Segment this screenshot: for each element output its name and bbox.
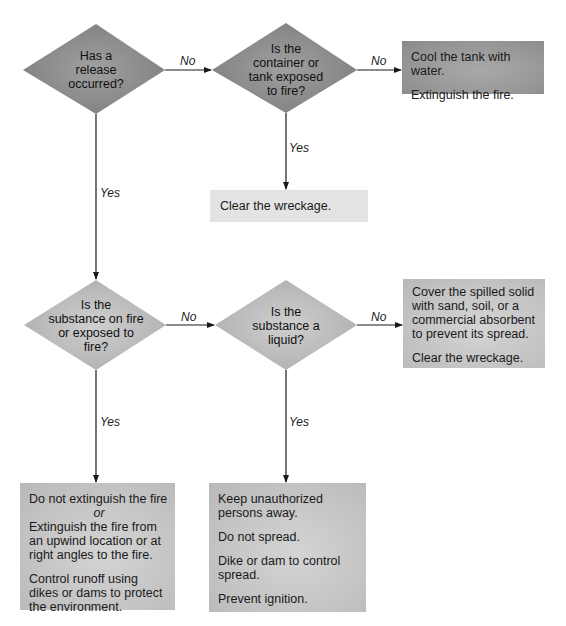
decision-on-fire-text: Is the substance on fire or exposed to f… [41,298,151,354]
text-line: release [46,63,146,77]
action-box-clear-wreckage: Clear the wreckage. [210,190,368,222]
edge-label-liquid-yes: Yes [289,415,309,429]
action-text: Do not spread. [218,530,358,544]
action-text: Extinguish the fire from an upwind locat… [29,520,169,562]
decision-release-text: Has a release occurred? [46,49,146,91]
text-line: occurred? [46,77,146,91]
text-line: container or [231,56,341,70]
text-line: substance on fire [41,312,151,326]
text-line: Is the [41,298,151,312]
action-text: Cover the spilled solid with sand, soil,… [412,285,539,341]
text-line: Is the [231,42,341,56]
flowchart: Has a release occurred? Is the container… [0,0,566,626]
edge-label-on-fire-yes: Yes [100,415,120,429]
action-text: Clear the wreckage. [412,351,539,365]
edge-label-release-no: No [180,54,195,68]
action-text: Extinguish the fire. [411,88,536,102]
text-line: Is the [236,305,336,319]
action-text: Do not extinguish the fire [29,492,169,506]
decision-container-text: Is the container or tank exposed to fire… [231,42,341,98]
text-line: Has a [46,49,146,63]
edge-label-container-yes: Yes [289,141,309,155]
action-box-cover-solid: Cover the spilled solid with sand, soil,… [403,279,545,368]
action-text: Clear the wreckage. [220,199,358,213]
edge-label-on-fire-no: No [181,310,196,324]
edge-label-container-no: No [371,54,386,68]
or-separator: or [29,506,169,520]
edge-label-liquid-no: No [371,310,386,324]
action-box-liquid-actions: Keep unauthorized persons away. Do not s… [209,483,366,612]
action-text: Control runoff using dikes or dams to pr… [29,572,169,614]
text-line: fire? [41,340,151,354]
text-line: or exposed to [41,326,151,340]
text-line: to fire? [231,84,341,98]
edge-label-release-yes: Yes [100,186,120,200]
text-line: substance a [236,319,336,333]
action-box-cool-tank: Cool the tank with water. Extinguish the… [402,41,544,94]
action-box-fire-actions: Do not extinguish the fire or Extinguish… [20,483,175,610]
text-line: liquid? [236,333,336,347]
action-text: Cool the tank with water. [411,50,536,78]
decision-liquid-text: Is the substance a liquid? [236,305,336,347]
text-line: tank exposed [231,70,341,84]
action-text: Keep unauthorized persons away. [218,492,358,520]
action-text: Prevent ignition. [218,592,358,606]
action-text: Dike or dam to control spread. [218,554,358,582]
